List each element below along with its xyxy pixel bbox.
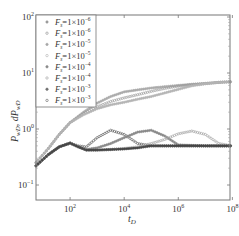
x-tick-label: 108	[226, 203, 238, 214]
data-point	[41, 154, 43, 156]
y-tick-label: 100	[22, 123, 34, 134]
data-point	[67, 123, 69, 125]
data-point	[39, 157, 41, 159]
y-tick-label: 10−1	[18, 179, 33, 190]
data-point	[37, 163, 39, 165]
data-point	[41, 159, 43, 161]
data-point	[51, 143, 53, 145]
data-point	[55, 138, 57, 140]
data-point	[47, 147, 49, 149]
chart: 10210410610810210110010−1 Fs=1×10−6Fs=1×…	[0, 0, 239, 236]
y-tick-label: 102	[22, 11, 34, 22]
data-point	[65, 125, 67, 127]
data-point	[43, 157, 45, 159]
data-point	[58, 133, 60, 135]
legend-marker	[46, 88, 48, 90]
legend: Fs=1×10−6Fs=1×10−6Fs=1×10−5Fs=1×10−5Fs=1…	[36, 15, 96, 107]
y-axis-label: PwD, dPwD	[9, 100, 22, 143]
data-point	[49, 145, 51, 147]
legend-marker	[46, 66, 48, 68]
legend-marker	[46, 43, 48, 45]
data-point	[45, 155, 47, 157]
data-point	[62, 129, 64, 131]
y-tick-label: 101	[22, 67, 34, 78]
data-point	[60, 131, 62, 133]
data-point	[45, 150, 47, 152]
legend-marker	[46, 21, 48, 23]
series	[35, 142, 232, 167]
x-axis-label: tD	[128, 213, 136, 226]
data-point	[43, 152, 45, 154]
x-tick-label: 102	[64, 203, 76, 214]
data-point	[37, 159, 39, 161]
data-point	[39, 161, 41, 163]
data-point	[53, 140, 55, 142]
data-point	[56, 136, 58, 138]
x-tick-label: 106	[172, 203, 184, 214]
data-point	[64, 127, 66, 129]
